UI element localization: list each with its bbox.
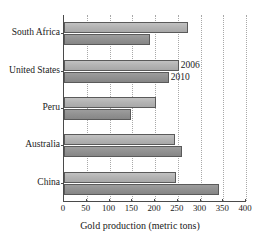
- bar-2006: [64, 97, 156, 108]
- x-axis-tick-label-0: 0: [61, 203, 65, 214]
- x-axis-tick-mark-350: [222, 199, 223, 202]
- bar-2006: [64, 134, 175, 145]
- x-axis-title: Gold production (metric tons): [40, 220, 240, 231]
- x-axis-tick-mark-0: [63, 199, 64, 202]
- bar-group: United States20062010: [64, 60, 245, 83]
- bar-2006: [64, 60, 179, 71]
- x-axis-tick-label-400: 400: [238, 203, 251, 214]
- x-axis-tick-label-350: 350: [216, 203, 229, 214]
- bar-group: South Africa: [64, 22, 245, 45]
- bar-2010: [64, 146, 182, 157]
- x-axis-tick-label-200: 200: [147, 203, 160, 214]
- bar-2006: [64, 22, 188, 33]
- y-axis-category-label: China: [37, 177, 60, 188]
- x-axis-tick-label-150: 150: [125, 203, 138, 214]
- bar-2006: [64, 172, 176, 183]
- chart-title: World Gold Production: [0, 0, 257, 1]
- bar-group: China: [64, 172, 245, 195]
- x-axis-tick-mark-400: [245, 199, 246, 202]
- x-axis-tick-mark-100: [109, 199, 110, 202]
- gold-production-bar-chart: World Gold Production South AfricaUnited…: [0, 0, 257, 242]
- x-axis-tick-mark-150: [131, 199, 132, 202]
- x-axis-tick-label-50: 50: [81, 203, 90, 214]
- x-axis-tick-labels: 050100150200250300350400: [63, 203, 244, 215]
- x-axis-tick-mark-200: [154, 199, 155, 202]
- x-axis-tick-label-250: 250: [170, 203, 183, 214]
- gridline-400: [246, 15, 247, 201]
- x-axis-tick-label-300: 300: [193, 203, 206, 214]
- y-axis-category-label: Peru: [43, 102, 60, 113]
- series-label-2010: 2010: [171, 72, 190, 82]
- bar-2010: [64, 184, 219, 195]
- bar-2010: [64, 72, 169, 83]
- plot-area: South AfricaUnited States20062010PeruAus…: [63, 15, 245, 202]
- bar-2010: [64, 34, 150, 45]
- bar-2010: [64, 109, 131, 120]
- bar-group: Peru: [64, 97, 245, 120]
- x-axis-tick-mark-250: [177, 199, 178, 202]
- x-axis-tick-mark-300: [200, 199, 201, 202]
- bar-group: Australia: [64, 134, 245, 157]
- x-axis-tick-label-100: 100: [102, 203, 115, 214]
- y-axis-category-label: United States: [9, 65, 60, 76]
- y-axis-category-label: South Africa: [12, 27, 60, 38]
- series-label-2006: 2006: [181, 60, 200, 70]
- y-axis-category-label: Australia: [25, 139, 60, 150]
- x-axis-tick-mark-50: [86, 199, 87, 202]
